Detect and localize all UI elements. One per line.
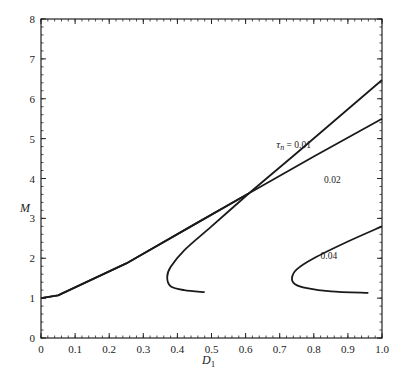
x-tick-label: 0 <box>38 343 44 355</box>
curve-0.02 <box>41 119 382 298</box>
y-tick-label: 8 <box>30 13 36 25</box>
y-tick-label: 5 <box>30 133 36 145</box>
y-tick-label: 3 <box>30 212 36 224</box>
curve-label: 0.02 <box>324 175 341 185</box>
x-axis-title-sub: 1 <box>211 359 216 369</box>
x-axis-title: D1 <box>201 353 215 369</box>
curve-labels: τn = 0.010.020.04 <box>276 138 341 261</box>
x-axis-title-main: D <box>201 353 211 367</box>
x-tick-label: 0.2 <box>102 343 116 355</box>
x-tick-label: 1.0 <box>375 343 389 355</box>
x-tick-label: 0.8 <box>307 343 321 355</box>
curves <box>41 80 382 298</box>
y-tick-label: 6 <box>30 93 36 105</box>
curve-label: 0.04 <box>321 251 338 261</box>
y-tick-label: 7 <box>30 53 36 65</box>
y-tick-label: 1 <box>30 292 36 304</box>
x-tick-label: 0.4 <box>171 343 185 355</box>
y-tick-label: 4 <box>30 173 36 185</box>
x-tick-label: 0.6 <box>239 343 253 355</box>
curve-0.01 <box>41 80 382 298</box>
y-tick-label: 2 <box>30 252 36 264</box>
x-tick-label: 0.9 <box>341 343 355 355</box>
chart: 00.10.20.30.40.50.60.70.80.91.0012345678… <box>0 0 405 384</box>
x-tick-label: 0.7 <box>273 343 287 355</box>
y-tick-label: 0 <box>30 332 36 344</box>
x-tick-label: 0.1 <box>68 343 82 355</box>
curve-branch <box>167 193 249 292</box>
y-axis-title: M <box>19 201 31 215</box>
x-tick-label: 0.3 <box>136 343 150 355</box>
curve-label: τn = 0.01 <box>276 138 311 152</box>
